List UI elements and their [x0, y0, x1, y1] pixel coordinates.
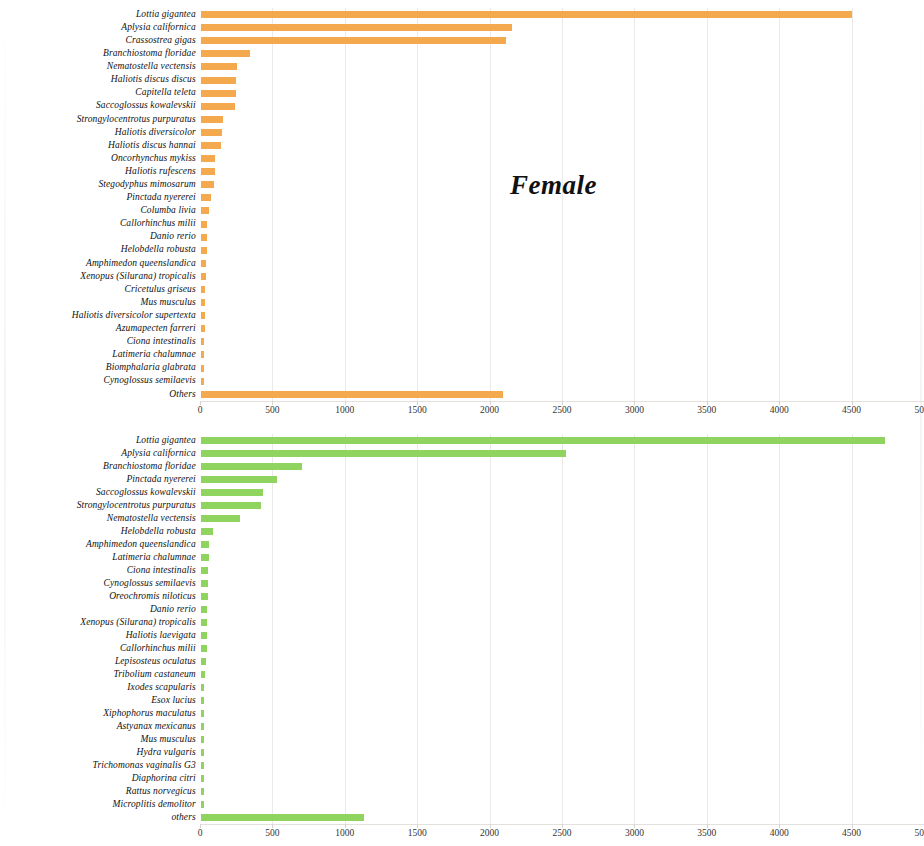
x-axis-tick-label: 2000: [480, 828, 499, 838]
male-bar-rows: Lottia giganteaAplysia californicaBranch…: [0, 434, 924, 824]
bar: [201, 645, 207, 652]
bar: [201, 502, 261, 509]
bar: [201, 142, 221, 149]
bar-track: [201, 772, 924, 785]
bar-row-label: Columba livia: [0, 206, 201, 216]
bar: [201, 391, 504, 398]
bar: [201, 775, 204, 782]
bar-row: Amphimedon queenslandica: [0, 538, 924, 551]
bar-row-label: Stegodyphus mimosarum: [0, 180, 201, 190]
bar-row-label: Others: [0, 390, 201, 400]
bar-row-label: Haliotis diversicolor: [0, 128, 201, 138]
x-axis-tick-mark: [490, 401, 491, 405]
bar: [201, 168, 215, 175]
x-axis-tick-mark: [634, 824, 635, 828]
x-axis-tick-label: 3000: [625, 405, 644, 415]
bar-track: [201, 8, 924, 21]
bar: [201, 801, 204, 808]
bar-track: [201, 681, 924, 694]
x-axis-tick-label: 0: [198, 405, 203, 415]
bar-row-label: Astyanax mexicanus: [0, 722, 201, 732]
bar-row: Oncorhynchus mykiss: [0, 152, 924, 165]
x-axis-tick-mark: [779, 824, 780, 828]
bar-row: Branchiostoma floridae: [0, 47, 924, 60]
bar: [201, 762, 204, 769]
bar-track: [201, 257, 924, 270]
bar-row: Aplysia californica: [0, 21, 924, 34]
bar-row-label: Saccoglossus kowalevskii: [0, 488, 201, 498]
bar: [201, 63, 237, 70]
bar: [201, 450, 566, 457]
bar-row-label: Branchiostoma floridae: [0, 49, 201, 59]
bar-row: Ixodes scapularis: [0, 681, 924, 694]
bar-row: Amphimedon queenslandica: [0, 257, 924, 270]
x-axis-tick-mark: [345, 401, 346, 405]
bar: [201, 554, 209, 561]
bar: [201, 50, 250, 57]
bar-row: Cricetulus griseus: [0, 283, 924, 296]
bar-track: [201, 204, 924, 217]
bar: [201, 736, 204, 743]
x-axis-tick-label: 4500: [842, 828, 861, 838]
bar-track: [201, 499, 924, 512]
x-axis-tick-mark: [634, 401, 635, 405]
bar-row-label: Mus musculus: [0, 298, 201, 308]
bar: [201, 286, 206, 293]
bar-row-label: Cynoglossus semilaevis: [0, 579, 201, 589]
x-axis-tick-mark: [417, 824, 418, 828]
bar-row: Helobdella robusta: [0, 244, 924, 257]
bar-row-label: Haliotis laevigata: [0, 631, 201, 641]
x-axis-tick-mark: [345, 824, 346, 828]
bar-row: Strongylocentrotus purpuratus: [0, 499, 924, 512]
bar: [201, 351, 204, 358]
bar-row-label: Tribolium castaneum: [0, 670, 201, 680]
bar: [201, 528, 213, 535]
bar-row: Strongylocentrotus purpuratus: [0, 113, 924, 126]
bar-row-label: Rattus norvegicus: [0, 787, 201, 797]
bar: [201, 181, 214, 188]
bar-row: Diaphorina citri: [0, 772, 924, 785]
bar-row-label: Strongylocentrotus purpuratus: [0, 501, 201, 511]
bar: [201, 541, 209, 548]
bar-track: [201, 538, 924, 551]
x-axis-tick-label: 1500: [408, 828, 427, 838]
bar-row: Mus musculus: [0, 296, 924, 309]
bar-row: Lottia gigantea: [0, 434, 924, 447]
x-axis-tick-label: 0: [198, 828, 203, 838]
bar-row-label: Pinctada nyererei: [0, 475, 201, 485]
female-x-axis: 0500100015002000250030003500400045005000: [200, 405, 924, 427]
bar: [201, 671, 205, 678]
bar-track: [201, 34, 924, 47]
x-axis-tick-label: 500: [265, 828, 279, 838]
bar-track: [201, 746, 924, 759]
x-axis-tick-mark: [562, 401, 563, 405]
female-bar-rows: Lottia giganteaAplysia californicaCrasso…: [0, 8, 924, 401]
bar-track: [201, 512, 924, 525]
bar-row-label: Latimeria chalumnae: [0, 350, 201, 360]
x-axis-tick-label: 3500: [697, 405, 716, 415]
bar: [201, 593, 208, 600]
bar-row-label: Azumapecten farreri: [0, 324, 201, 334]
bar: [201, 24, 512, 31]
bar-track: [201, 811, 924, 824]
bar-track: [201, 388, 924, 401]
bar-track: [201, 473, 924, 486]
x-axis-tick-mark: [779, 401, 780, 405]
bar-track: [201, 460, 924, 473]
bar: [201, 90, 236, 97]
bar-track: [201, 655, 924, 668]
bar-track: [201, 759, 924, 772]
bar-row-label: Oreochromis niloticus: [0, 592, 201, 602]
x-axis-tick-mark: [417, 401, 418, 405]
x-axis-tick-label: 3000: [625, 828, 644, 838]
bar: [201, 37, 507, 44]
bar: [201, 476, 277, 483]
bar-row: Microplitis demolitor: [0, 798, 924, 811]
bar-row-label: Latimeria chalumnae: [0, 553, 201, 563]
bar-row-label: Esox lucius: [0, 696, 201, 706]
bar: [201, 234, 208, 241]
bar-row: Azumapecten farreri: [0, 322, 924, 335]
bar-row-label: Helobdella robusta: [0, 245, 201, 255]
bar: [201, 207, 210, 214]
bar-row: Haliotis discus hannai: [0, 139, 924, 152]
